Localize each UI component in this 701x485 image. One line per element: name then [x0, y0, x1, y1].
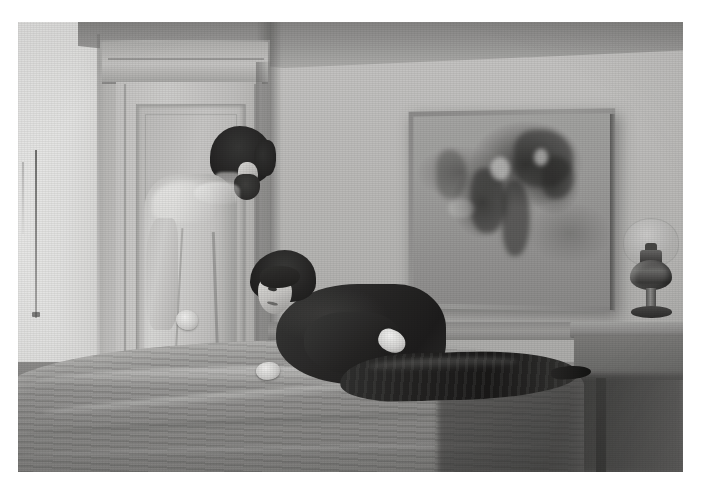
artwork-plate [18, 22, 683, 472]
plate-border-bottom [0, 472, 701, 485]
wall-painting-canvas [413, 113, 610, 306]
painting-mark-4 [502, 179, 530, 255]
wall-left-far [18, 22, 100, 390]
door-stile-left [124, 84, 126, 386]
wall-line-faint [22, 162, 24, 234]
painting-highlight-1 [490, 157, 510, 180]
plate-border-right [683, 0, 701, 485]
lamp-base [631, 306, 672, 318]
wall-painting-frame [409, 108, 616, 312]
man-collar [194, 182, 240, 204]
plate-border-top [0, 0, 701, 22]
wall-painting-edge [610, 114, 615, 310]
screenshot-root: Interior with a standing man and a recli… [0, 0, 701, 485]
lamp-stem [646, 288, 656, 308]
door-lintel-moulding [108, 58, 264, 60]
man-clasped-hands [176, 310, 198, 330]
lamp-reservoir [630, 260, 672, 290]
wall-line [35, 150, 37, 318]
door-lintel [102, 42, 268, 84]
painting-highlight-3 [448, 199, 475, 218]
painting-highlight-2 [534, 149, 548, 166]
man-sleeve [146, 218, 178, 330]
painting-mark-5 [436, 150, 467, 199]
plate-border-left [0, 0, 18, 485]
wall-line-tick [32, 312, 40, 317]
